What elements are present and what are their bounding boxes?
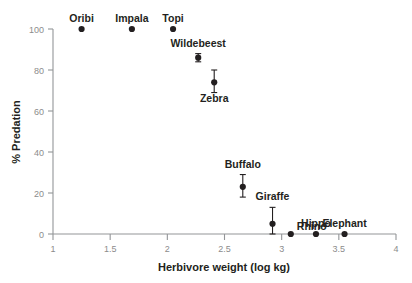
data-point-label: Buffalo [225, 158, 261, 170]
y-axis-ticks: 020406080100 [29, 25, 53, 240]
x-tick-label: 3.5 [333, 244, 346, 254]
data-point-label: Giraffe [256, 190, 290, 202]
data-point [240, 184, 246, 190]
y-axis-title: % Predation [10, 100, 22, 164]
y-tick-label: 100 [29, 25, 44, 35]
x-tick-label: 2 [165, 244, 170, 254]
data-point [78, 26, 84, 32]
y-tick-label: 60 [34, 107, 44, 117]
plot-area: 020406080100 11.522.533.54 % Predation H… [0, 0, 412, 283]
scatter-chart: 020406080100 11.522.533.54 % Predation H… [0, 0, 412, 283]
data-point-label: Impala [115, 12, 148, 24]
x-axis-title: Herbivore weight (log kg) [158, 261, 290, 273]
x-tick-label: 1.5 [104, 244, 117, 254]
x-tick-label: 4 [393, 244, 398, 254]
data-point [269, 221, 275, 227]
data-series: OribiImpalaTopiWildebeestZebraBuffaloGir… [69, 12, 367, 237]
data-point [211, 79, 217, 85]
data-point-label: Wildebeest [171, 37, 227, 49]
data-point [313, 231, 319, 237]
data-point [170, 26, 176, 32]
data-point [341, 231, 347, 237]
x-axis-ticks: 11.522.533.54 [50, 234, 398, 254]
data-point-label: Zebra [200, 92, 229, 104]
data-point [195, 55, 201, 61]
data-point [288, 231, 294, 237]
x-tick-label: 1 [50, 244, 55, 254]
y-tick-label: 20 [34, 189, 44, 199]
y-tick-label: 40 [34, 148, 44, 158]
x-tick-label: 2.5 [218, 244, 231, 254]
y-tick-label: 80 [34, 66, 44, 76]
data-point-label: Elephant [322, 217, 367, 229]
axes-group [53, 29, 396, 234]
x-tick-label: 3 [279, 244, 284, 254]
data-point [129, 26, 135, 32]
y-tick-label: 0 [39, 230, 44, 240]
data-point-label: Oribi [69, 12, 94, 24]
data-point-label: Topi [162, 12, 183, 24]
